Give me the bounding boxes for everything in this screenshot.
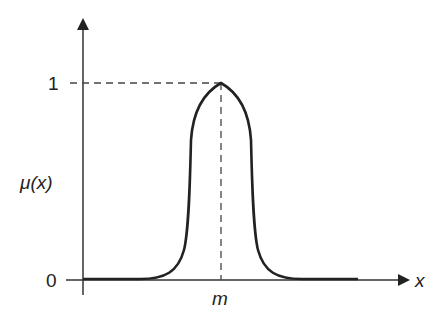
x-tick-m: m (212, 288, 228, 309)
y-tick-1: 1 (48, 73, 59, 94)
x-axis-arrow-icon (398, 274, 410, 286)
x-axis-label: x (414, 270, 426, 291)
membership-function-diagram: 1 0 μ(x) m x (0, 0, 446, 323)
y-tick-0: 0 (46, 270, 57, 291)
y-axis-label: μ(x) (19, 172, 53, 193)
y-axis-arrow-icon (77, 18, 89, 30)
